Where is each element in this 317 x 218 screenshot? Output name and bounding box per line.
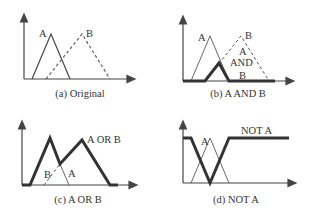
- caption-not: (d) NOT A: [213, 194, 259, 205]
- panel-not: A NOT A (d) NOT A: [157, 109, 315, 218]
- result-label-or: A OR B: [87, 134, 121, 145]
- label-b: B: [44, 169, 51, 180]
- not-a-result-line: [183, 138, 289, 183]
- label-b: B: [245, 30, 252, 41]
- result-label-a: A: [239, 46, 247, 57]
- caption-or: (c) A OR B: [54, 194, 102, 205]
- label-a: A: [198, 32, 206, 43]
- label-b: B: [86, 28, 93, 39]
- label-a: A: [68, 168, 76, 179]
- result-label-not: NOT A: [241, 125, 272, 136]
- set-a-triangle: [191, 138, 229, 183]
- result-label-and: AND: [230, 57, 253, 68]
- x-axis-arrow-icon: [286, 78, 294, 85]
- x-axis-arrow-icon: [129, 182, 137, 189]
- label-a: A: [39, 28, 47, 39]
- and-result-line: [183, 63, 275, 81]
- panel-original: A B (a) Original: [0, 0, 158, 109]
- y-axis-arrow-icon: [180, 16, 187, 24]
- panel-or: B A A OR B (c) A OR B: [0, 109, 158, 218]
- y-axis-arrow-icon: [21, 14, 28, 22]
- label-a: A: [201, 136, 209, 147]
- caption-and: (b) A AND B: [210, 88, 266, 99]
- axes: [19, 121, 138, 189]
- set-b-triangle-dashed: [46, 34, 110, 79]
- panel-and: A B A AND B (b) A AND B: [157, 0, 315, 109]
- caption-original: (a) Original: [55, 88, 104, 99]
- y-axis-arrow-icon: [19, 121, 26, 129]
- x-axis-arrow-icon: [127, 76, 135, 83]
- axes: [180, 16, 295, 85]
- x-axis-arrow-icon: [288, 180, 296, 187]
- result-label-b: B: [239, 70, 246, 81]
- y-axis-arrow-icon: [180, 121, 187, 129]
- axes: [21, 14, 136, 83]
